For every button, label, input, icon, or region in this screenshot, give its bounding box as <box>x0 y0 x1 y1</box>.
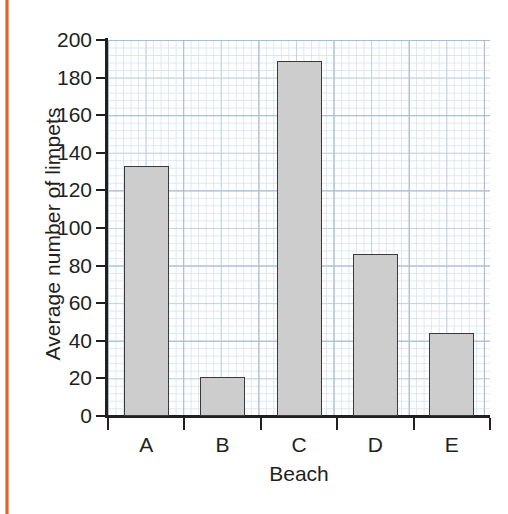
x-tick <box>107 418 109 430</box>
bar-chart-figure: Average number of limpets 20018016014012… <box>0 0 508 514</box>
x-tick <box>260 418 262 430</box>
y-tick-200 <box>96 39 106 41</box>
y-tick-60 <box>96 302 106 304</box>
y-tick-0 <box>96 415 106 417</box>
y-tick-label: 20 <box>32 367 92 388</box>
y-tick-160 <box>96 114 106 116</box>
y-tick-label: 140 <box>32 142 92 163</box>
y-tick-80 <box>96 265 106 267</box>
bar-b <box>200 377 245 416</box>
x-tick-label-a: A <box>121 434 171 455</box>
bar-d <box>353 254 398 416</box>
x-tick <box>336 418 338 430</box>
bar-a <box>124 166 169 416</box>
y-tick-label: 60 <box>32 292 92 313</box>
y-tick-label: 100 <box>32 217 92 238</box>
y-tick-label: 80 <box>32 255 92 276</box>
x-tick-label-b: B <box>198 434 248 455</box>
y-tick-label: 120 <box>32 179 92 200</box>
y-tick-20 <box>96 377 106 379</box>
y-tick-120 <box>96 189 106 191</box>
y-tick-180 <box>96 77 106 79</box>
bar-c <box>277 61 322 416</box>
x-tick <box>413 418 415 430</box>
bar-e <box>429 333 474 416</box>
y-tick-100 <box>96 227 106 229</box>
y-tick-label: 200 <box>32 29 92 50</box>
y-tick-140 <box>96 152 106 154</box>
x-tick <box>489 418 491 430</box>
y-tick-label: 0 <box>32 405 92 426</box>
y-tick-40 <box>96 340 106 342</box>
y-tick-label: 180 <box>32 67 92 88</box>
x-axis-title: Beach <box>108 462 490 486</box>
y-tick-label: 160 <box>32 104 92 125</box>
y-tick-label: 40 <box>32 330 92 351</box>
x-tick-label-c: C <box>274 434 324 455</box>
x-tick-label-d: D <box>350 434 400 455</box>
x-tick <box>183 418 185 430</box>
x-tick-label-e: E <box>427 434 477 455</box>
